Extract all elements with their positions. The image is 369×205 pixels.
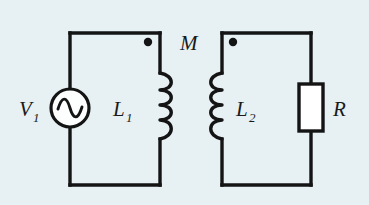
label-source-subscript: 1 (33, 110, 40, 125)
resistor-r (299, 84, 323, 131)
dot-secondary (229, 38, 237, 46)
inductor-l1 (160, 73, 171, 139)
inductor-l2-coil (211, 73, 222, 139)
inductor-l2 (211, 73, 222, 139)
label-inductor-l1-subscript: 1 (126, 110, 133, 125)
label-inductor-l2: L (235, 97, 248, 121)
label-inductor-l1: L (112, 97, 125, 121)
label-resistor: R (332, 97, 346, 121)
resistor-body (299, 84, 323, 131)
label-mutual-inductance: M (179, 31, 199, 55)
label-source: V (19, 97, 34, 121)
circuit-canvas: V 1 L 1 L 2 M R (0, 0, 369, 205)
circuit-diagram: V 1 L 1 L 2 M R (0, 0, 369, 205)
dot-primary (144, 38, 152, 46)
ac-voltage-source (51, 89, 89, 127)
label-inductor-l2-subscript: 2 (249, 110, 256, 125)
inductor-l1-coil (160, 73, 171, 139)
